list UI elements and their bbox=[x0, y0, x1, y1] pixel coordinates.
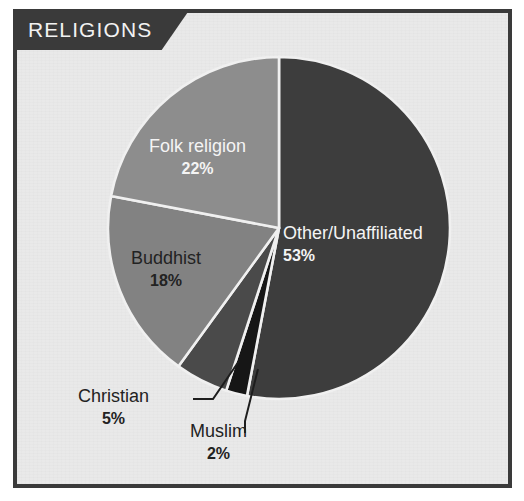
slice-label-value: 18% bbox=[131, 271, 201, 291]
slice-label-christian: Christian 5% bbox=[78, 385, 149, 429]
slice-label-name: Other/Unaffiliated bbox=[283, 222, 423, 244]
slice-label-buddhist: Buddhist 18% bbox=[131, 247, 201, 291]
slice-label-value: 5% bbox=[78, 409, 149, 429]
title-banner: RELIGIONS bbox=[13, 9, 190, 50]
slice-label-name: Christian bbox=[78, 385, 149, 407]
slice-label-muslim: Muslim 2% bbox=[190, 420, 247, 464]
infographic-root: RELIGIONS Other/Unaffiliated 53% Folk re… bbox=[0, 0, 524, 501]
slice-label-name: Buddhist bbox=[131, 247, 201, 269]
slice-label-name: Muslim bbox=[190, 420, 247, 442]
slice-label-value: 2% bbox=[190, 444, 247, 464]
slice-label-value: 22% bbox=[149, 159, 246, 179]
page-title: RELIGIONS bbox=[13, 18, 152, 42]
slice-label-name: Folk religion bbox=[149, 135, 246, 157]
slice-label-value: 53% bbox=[283, 246, 423, 266]
slice-label-folk-religion: Folk religion 22% bbox=[149, 135, 246, 179]
slice-label-other-unaffiliated: Other/Unaffiliated 53% bbox=[283, 222, 423, 266]
